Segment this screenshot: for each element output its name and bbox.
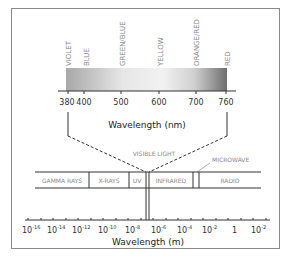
m-axis-title: Wavelength (m) — [112, 237, 184, 247]
nm-tick-500: 500 — [113, 98, 128, 107]
microwave-label: MICROWAVE — [212, 156, 249, 163]
m-tick-3: 10-10 — [98, 224, 116, 235]
band-radio: RADIO — [220, 177, 239, 184]
color-label-blue: BLUE — [83, 48, 91, 66]
m-tick-8: 1 — [232, 226, 237, 235]
nm-tick-600: 600 — [151, 98, 166, 107]
nm-tick-400: 400 — [76, 98, 91, 107]
color-label-green-blue: GREEN/BLUE — [119, 21, 127, 66]
color-label-red: RED — [224, 51, 232, 66]
visible-light-label: VISIBLE LIGHT — [133, 150, 176, 157]
nm-axis-title: Wavelength (nm) — [108, 120, 186, 130]
color-label-orange-red: ORANGE/RED — [193, 19, 201, 66]
m-tick-4: 10-8 — [125, 224, 140, 235]
m-tick-2: 10-12 — [72, 224, 90, 235]
m-tick-0: 10-16 — [22, 224, 40, 235]
nm-tick-labels: 380 400 500 600 700 760 — [59, 98, 233, 107]
nm-tick-700: 700 — [188, 98, 203, 107]
band-uv: UV — [133, 177, 142, 184]
m-tick-9: 10-2 — [251, 224, 266, 235]
microwave-pointer — [197, 163, 210, 172]
m-tick-1: 10-14 — [47, 224, 65, 235]
color-label-violet: VIOLET — [65, 40, 73, 66]
nm-tick-380: 380 — [59, 98, 74, 107]
visible-color-labels: VIOLET BLUE GREEN/BLUE YELLOW ORANGE/RED… — [65, 19, 232, 67]
band-x-rays: X-RAYS — [98, 177, 119, 184]
m-tick-5: 10-6 — [151, 224, 166, 235]
m-tick-labels: 10-16 10-14 10-12 10-10 10-8 10-6 10-4 1… — [22, 224, 266, 235]
nm-tick-760: 760 — [218, 98, 233, 107]
band-labels: GAMMA RAYS X-RAYS UV INFRARED RADIO — [42, 177, 240, 184]
m-tick-6: 10-4 — [177, 224, 192, 235]
visible-spectrum-bar — [66, 68, 227, 91]
band-infrared: INFRARED — [156, 177, 187, 184]
band-gamma-rays: GAMMA RAYS — [42, 177, 82, 184]
spectrum-diagram: VIOLET BLUE GREEN/BLUE YELLOW ORANGE/RED… — [0, 0, 288, 263]
color-label-yellow: YELLOW — [157, 37, 165, 67]
m-tick-7: 10-2 — [202, 224, 217, 235]
